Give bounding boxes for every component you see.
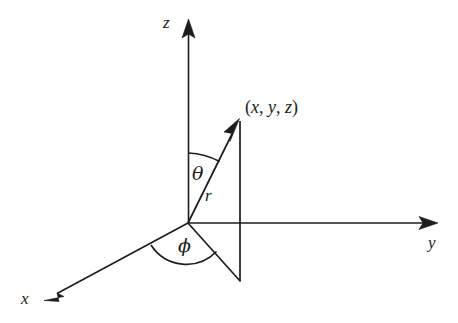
phi-angle-label: ϕ bbox=[178, 236, 191, 255]
point-paren-close: ) bbox=[292, 97, 298, 117]
xy-projection-line bbox=[188, 223, 241, 282]
x-axis-arrowhead bbox=[44, 293, 64, 302]
r-vector-arrowhead bbox=[224, 119, 240, 142]
point-y-symbol: y bbox=[268, 97, 276, 117]
point-z-symbol: z bbox=[285, 97, 292, 117]
point-separator-2: , bbox=[276, 97, 285, 117]
r-radius-label: r bbox=[205, 187, 212, 204]
theta-angle-label: θ bbox=[192, 164, 203, 183]
point-coordinates-label: (x, y, z) bbox=[245, 98, 298, 116]
point-separator-1: , bbox=[259, 97, 268, 117]
coordinate-axes-svg bbox=[0, 0, 458, 323]
z-axis-label: z bbox=[163, 14, 170, 31]
x-axis-label: x bbox=[21, 290, 29, 307]
x-axis-line bbox=[57, 223, 188, 294]
point-x-symbol: x bbox=[251, 97, 259, 117]
theta-arc bbox=[189, 153, 220, 162]
spherical-coordinate-diagram: z y x θ ϕ r (x, y, z) bbox=[0, 0, 458, 323]
y-axis-label: y bbox=[428, 234, 436, 251]
